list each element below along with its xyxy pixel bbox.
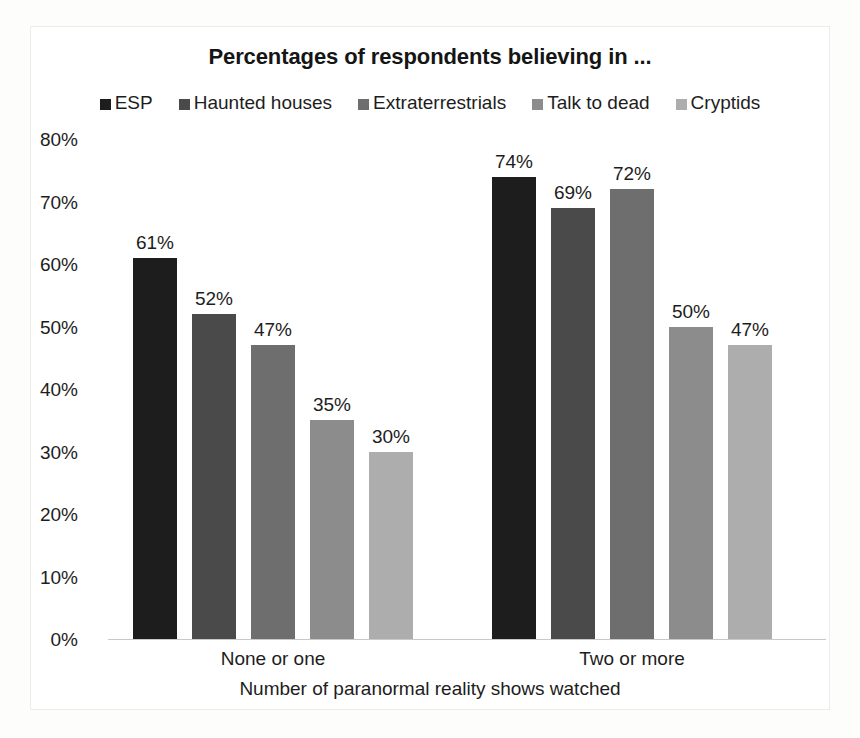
legend-item[interactable]: Extraterrestrials [358,92,506,114]
legend-swatch-icon [532,99,543,110]
bar[interactable] [251,345,295,639]
category-label: Two or more [579,648,685,670]
legend-label: Extraterrestrials [373,92,506,114]
y-axis-tick-label: 80% [8,129,78,151]
category-label: None or one [221,648,326,670]
bar-value-label: 52% [195,288,233,310]
legend-swatch-icon [358,99,369,110]
legend-item[interactable]: Haunted houses [179,92,332,114]
bar[interactable] [133,258,177,639]
legend-swatch-icon [676,99,687,110]
y-axis-tick-label: 10% [8,567,78,589]
y-axis-tick-label: 0% [8,629,78,651]
bar-value-label: 47% [731,319,769,341]
bar-value-label: 30% [372,426,410,448]
legend-label: ESP [115,92,153,114]
legend-item[interactable]: Talk to dead [532,92,649,114]
legend-label: Haunted houses [194,92,332,114]
bar-value-label: 74% [495,151,533,173]
bar[interactable] [728,345,772,639]
chart-title: Percentages of respondents believing in … [30,44,830,70]
chart-legend: ESPHaunted housesExtraterrestrialsTalk t… [30,92,830,114]
bar[interactable] [369,452,413,640]
plot-area: 61%52%47%35%30%74%69%72%50%47% 80%70%60%… [30,140,830,640]
bar-value-label: 47% [254,319,292,341]
bar[interactable] [669,327,713,640]
legend-item[interactable]: Cryptids [676,92,761,114]
y-axis-tick-label: 30% [8,442,78,464]
bar-value-label: 72% [613,163,651,185]
y-axis-tick-label: 40% [8,379,78,401]
y-axis-tick-label: 50% [8,317,78,339]
bar-value-label: 35% [313,394,351,416]
bar-value-label: 50% [672,301,710,323]
legend-label: Cryptids [691,92,761,114]
bar[interactable] [310,420,354,639]
legend-swatch-icon [179,99,190,110]
y-axis-tick-label: 20% [8,504,78,526]
legend-item[interactable]: ESP [100,92,153,114]
bar-value-label: 69% [554,182,592,204]
bars-layer: 61%52%47%35%30%74%69%72%50%47% [30,140,830,640]
y-axis-tick-label: 70% [8,192,78,214]
bar[interactable] [551,208,595,639]
legend-label: Talk to dead [547,92,649,114]
bar[interactable] [610,189,654,639]
legend-swatch-icon [100,99,111,110]
bar-value-label: 61% [136,232,174,254]
bar[interactable] [492,177,536,640]
x-axis-title: Number of paranormal reality shows watch… [30,678,830,700]
y-axis-tick-label: 60% [8,254,78,276]
bar[interactable] [192,314,236,639]
